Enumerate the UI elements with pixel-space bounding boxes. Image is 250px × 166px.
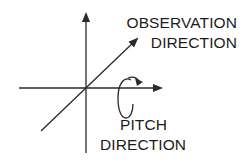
observation-direction-label-line1: OBSERVATION <box>127 14 238 32</box>
axes-diagram: OBSERVATION DIRECTION PITCH DIRECTION <box>0 0 250 166</box>
pitch-arrowhead-tip-icon <box>135 78 143 86</box>
pitch-rotation-arc <box>118 79 133 118</box>
observation-direction-label-line2: DIRECTION <box>151 34 237 52</box>
pitch-direction-label-line2: DIRECTION <box>100 136 186 154</box>
pitch-direction-label-line1: PITCH <box>120 116 167 134</box>
